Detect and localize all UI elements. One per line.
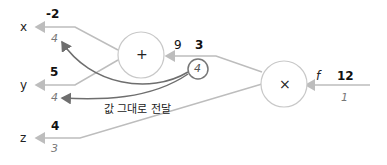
add-out-forward: 3 xyxy=(195,39,203,51)
edge-add-mul xyxy=(166,56,262,72)
computational-graph xyxy=(0,0,387,165)
y-backward-value: 4 xyxy=(51,92,58,103)
z-forward-value: 4 xyxy=(51,120,59,132)
var-x-label: x xyxy=(20,21,27,33)
pass-through-note: 값 그대로 전달 xyxy=(104,104,171,115)
z-backward-value: 3 xyxy=(51,143,58,154)
add-node-op: + xyxy=(136,47,148,61)
gradient-badge-value: 4 xyxy=(194,63,201,74)
y-forward-value: 5 xyxy=(50,66,58,78)
var-y-label: y xyxy=(20,79,27,91)
edge-x xyxy=(36,27,118,50)
grad-arrow-y xyxy=(62,74,188,99)
x-backward-value: 4 xyxy=(51,33,58,44)
edge-y xyxy=(36,60,118,85)
x-forward-value: -2 xyxy=(46,8,59,20)
f-backward-value: 1 xyxy=(341,92,348,103)
f-forward-value: 12 xyxy=(337,70,354,82)
f-output-name: f xyxy=(316,70,320,82)
mul-node-op: × xyxy=(279,77,291,91)
var-z-label: z xyxy=(20,132,26,144)
add-out-label: 9 xyxy=(174,39,182,51)
